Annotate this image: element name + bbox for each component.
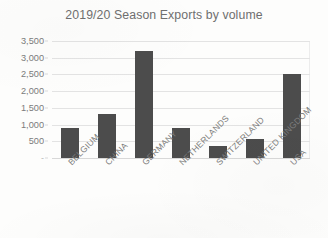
y-tick-mark-1500 (45, 107, 48, 108)
y-tick-label-500: 500 (29, 136, 44, 146)
y-tick-mark-2500 (45, 74, 48, 75)
y-tick-mark-0 (45, 158, 48, 159)
y-tick-mark-1000 (45, 124, 48, 125)
chart-screenshot: 2019/20 Season Exports by volume -5001,0… (0, 0, 328, 238)
chart-title: 2019/20 Season Exports by volume (0, 8, 328, 22)
gridline-1000 (52, 125, 310, 126)
gridline-1500 (52, 108, 310, 109)
gridline-3000 (52, 58, 310, 59)
y-axis: -5001,0001,5002,0002,5003,0003,500 (0, 41, 48, 158)
y-tick-label-1500: 1,500 (21, 103, 44, 113)
gridline-2500 (52, 74, 310, 75)
y-tick-label-3500: 3,500 (21, 36, 44, 46)
y-tick-label-0: - (41, 153, 44, 163)
y-tick-mark-2000 (45, 91, 48, 92)
y-tick-mark-3000 (45, 57, 48, 58)
bar-germany[interactable] (135, 51, 153, 158)
y-tick-mark-3500 (45, 41, 48, 42)
y-tick-mark-500 (45, 141, 48, 142)
y-tick-label-2000: 2,000 (21, 86, 44, 96)
x-axis: BELGIUMCHINAGERMANYNETHERLANDSSWITZERLAN… (52, 160, 310, 236)
gridline-3500 (52, 41, 310, 42)
y-tick-label-3000: 3,000 (21, 53, 44, 63)
y-tick-label-1000: 1,000 (21, 120, 44, 130)
gridline-2000 (52, 91, 310, 92)
y-tick-label-2500: 2,500 (21, 69, 44, 79)
